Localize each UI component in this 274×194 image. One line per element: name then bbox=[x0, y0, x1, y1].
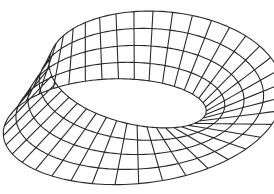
mobius-strip-figure bbox=[0, 0, 274, 194]
mobius-wireframe bbox=[0, 0, 274, 194]
wireframe-mesh bbox=[3, 11, 274, 185]
